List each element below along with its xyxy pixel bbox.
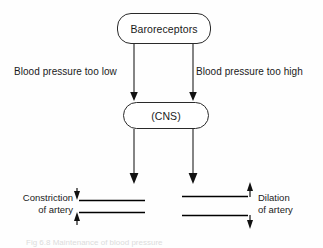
arrow-dilation-top-up-icon xyxy=(247,182,253,197)
artery-dilated xyxy=(182,197,248,216)
outcome-label-constriction-line1: Constriction xyxy=(11,192,73,204)
figure-caption: Fig 6.8 Maintenance of blood pressure xyxy=(0,238,323,248)
arrow-dilation-bottom-down-icon xyxy=(247,215,253,229)
arrow-constriction-top-down-icon xyxy=(74,188,80,200)
diagram-canvas: Baroreceptors Blood pressure too low Blo… xyxy=(0,0,323,248)
outcome-label-constriction-line2: of artery xyxy=(11,204,73,216)
node-baroreceptors: Baroreceptors xyxy=(117,13,211,44)
arrow-cns-to-constriction xyxy=(130,129,139,184)
figure-caption-text: Fig 6.8 Maintenance of blood pressure xyxy=(0,238,323,247)
node-cns: (CNS) xyxy=(123,102,209,129)
outcome-label-dilation-line1: Dilation xyxy=(258,192,320,204)
outcome-label-constriction: Constriction of artery xyxy=(11,192,73,215)
node-baroreceptors-label: Baroreceptors xyxy=(130,23,197,35)
arrow-constriction-bottom-up-icon xyxy=(74,212,80,225)
edge-label-blood-pressure-low: Blood pressure too low xyxy=(14,66,117,77)
arrow-cns-to-dilation xyxy=(189,129,198,184)
outcome-label-dilation: Dilation of artery xyxy=(258,192,320,215)
node-cns-label: (CNS) xyxy=(151,110,181,122)
arrow-baroreceptors-to-cns-left xyxy=(130,44,138,101)
artery-constricted xyxy=(79,201,145,213)
edge-label-blood-pressure-high: Blood pressure too high xyxy=(196,66,303,77)
outcome-label-dilation-line2: of artery xyxy=(258,204,320,216)
